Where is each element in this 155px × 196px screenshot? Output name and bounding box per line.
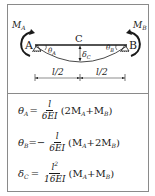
theta-b-arc xyxy=(116,45,117,50)
sign: − xyxy=(37,138,45,148)
rhs-sub: B xyxy=(106,174,110,180)
dimension-left-label: l/2 xyxy=(52,67,64,77)
theta-a-label: θA xyxy=(48,47,56,56)
formula-lhs-sub: B xyxy=(24,143,28,149)
moment-b-label: MB xyxy=(132,20,147,31)
denominator: 6EI xyxy=(40,111,60,122)
rhs-sub: B xyxy=(112,143,116,149)
rhs-part: (2M xyxy=(61,106,82,116)
rhs-part: ) xyxy=(116,138,120,148)
rhs-part: +M xyxy=(87,169,106,179)
midpoint-label: C xyxy=(75,33,83,44)
formula-lhs-sub: C xyxy=(24,174,29,180)
rhs-part: +2M xyxy=(87,138,112,148)
fraction: l2 16EI xyxy=(42,162,68,185)
numerator: l xyxy=(54,131,61,143)
denominator: 6EI xyxy=(47,143,67,154)
formula-theta-a: θA = l 6EI (2MA +MB ) xyxy=(18,99,112,122)
delta-c-label: δC xyxy=(82,50,91,60)
rhs-sub: A xyxy=(83,174,87,180)
numerator: l2 xyxy=(49,162,60,174)
rhs-part: ) xyxy=(110,169,114,179)
equals-sign: = xyxy=(31,169,39,179)
equals-sign: = xyxy=(29,106,37,116)
moment-a-label: MA xyxy=(11,20,26,31)
support-b-label: B xyxy=(129,39,137,52)
support-a-label: A xyxy=(24,39,34,52)
formula-delta-c: δC = l2 16EI (MA +MB ) xyxy=(18,162,114,185)
theta-a-arc xyxy=(45,45,46,50)
rhs-part: (M xyxy=(68,138,82,148)
fraction: l 6EI xyxy=(47,131,67,154)
rhs-sub: B xyxy=(104,111,108,117)
formula-lhs-sub: A xyxy=(24,111,28,117)
support-a-icon xyxy=(32,45,42,52)
equals-sign: = xyxy=(28,138,36,148)
rhs-part: ) xyxy=(109,106,113,116)
denominator: 16EI xyxy=(42,174,68,185)
numerator: l xyxy=(46,99,53,111)
dimension-right-label: l/2 xyxy=(96,67,108,77)
rhs-sub: A xyxy=(81,111,85,117)
rhs-part: (M xyxy=(69,169,83,179)
formula-theta-b: θB = − l 6EI (MA +2MB ) xyxy=(18,131,120,154)
beam-diagram: MA MB A B C θA θB δC l/2 l/2 xyxy=(0,0,155,92)
fraction: l 6EI xyxy=(40,99,60,122)
section-divider xyxy=(7,93,149,94)
rhs-sub: A xyxy=(82,143,86,149)
rhs-part: +M xyxy=(85,106,104,116)
